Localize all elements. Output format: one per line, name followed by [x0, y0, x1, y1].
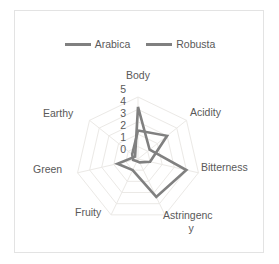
- radial-tick-5: 5: [120, 83, 126, 95]
- axis-label-bitterness: Bitterness: [201, 161, 248, 173]
- axis-label-body: Body: [126, 69, 151, 81]
- axis-label-astringency: Astringenc: [163, 209, 213, 221]
- radial-tick-0: 0: [120, 143, 126, 155]
- spoke-astringency: [138, 159, 165, 215]
- radial-tick-1: 1: [120, 131, 126, 143]
- radar-chart-svg: 5 4 3 2 1 0 Body Acidity Bitterness Astr…: [15, 11, 265, 254]
- radial-tick-3: 3: [120, 107, 126, 119]
- radial-tick-labels: 5 4 3 2 1 0: [120, 83, 126, 155]
- axis-label-earthy: Earthy: [43, 107, 74, 119]
- radial-tick-2: 2: [120, 119, 126, 131]
- chart-card: Arabica Robusta 5 4 3 2 1: [14, 10, 264, 253]
- axis-label-acidity: Acidity: [190, 106, 222, 118]
- axis-label-fruity: Fruity: [75, 206, 102, 218]
- category-axis-labels: Body Acidity Bitterness Astringenc y Fru…: [33, 69, 248, 234]
- radial-tick-4: 4: [120, 95, 126, 107]
- axis-label-green: Green: [33, 163, 62, 175]
- axis-label-astringency-wrap: y: [188, 222, 194, 234]
- radar-plot-area: 5 4 3 2 1 0 Body Acidity Bitterness Astr…: [15, 11, 265, 254]
